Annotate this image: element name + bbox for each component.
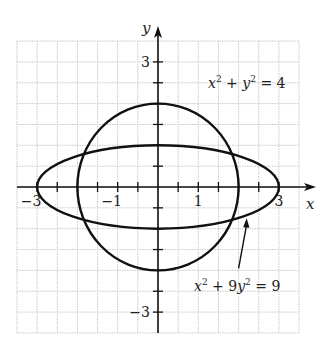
x-tick-label: −3	[21, 193, 42, 209]
conic-plot: −3−1133−3 x y x2 + y2 = 4 x2 + 9y2 = 9	[0, 0, 329, 346]
ellipse-label-arrow	[239, 218, 250, 268]
ellipse-eq-plus9: + 9	[208, 278, 238, 294]
y-axis-label: y	[141, 19, 151, 37]
ellipse-eq-x: x	[194, 278, 202, 294]
x-axis-label: x	[306, 195, 315, 213]
circle-equation-label: x2 + y2 = 4	[208, 74, 286, 91]
circle-eq-plus: +	[222, 75, 243, 91]
arrow-head-icon	[243, 218, 249, 228]
arrow-shaft	[239, 224, 247, 268]
circle-eq-x: x	[208, 75, 216, 91]
x-tick-label: −1	[101, 193, 122, 209]
circle-eq-rhs: = 4	[256, 75, 286, 91]
y-tick-label: −3	[129, 304, 150, 320]
x-tick-label: 1	[194, 193, 203, 209]
x-tick-label: 3	[274, 193, 283, 209]
ellipse-equation-label: x2 + 9y2 = 9	[194, 277, 280, 294]
y-tick-label: 3	[141, 54, 150, 70]
ellipse-eq-rhs: = 9	[251, 278, 281, 294]
